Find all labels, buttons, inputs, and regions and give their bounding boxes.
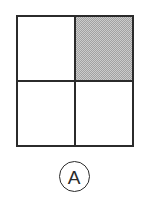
figure-label-letter: A: [68, 168, 81, 187]
circled-label-badge: A: [59, 161, 90, 192]
grid-cell-top-left: [18, 17, 75, 81]
grid-cells: [18, 17, 132, 145]
grid-cell-bottom-right: [75, 81, 132, 145]
grid-cell-bottom-left: [18, 81, 75, 145]
figure-label-area: A: [0, 161, 146, 197]
grid-cell-top-right-shaded: [75, 17, 132, 81]
partitioned-square: [16, 15, 134, 147]
figure-root: A: [0, 0, 146, 198]
